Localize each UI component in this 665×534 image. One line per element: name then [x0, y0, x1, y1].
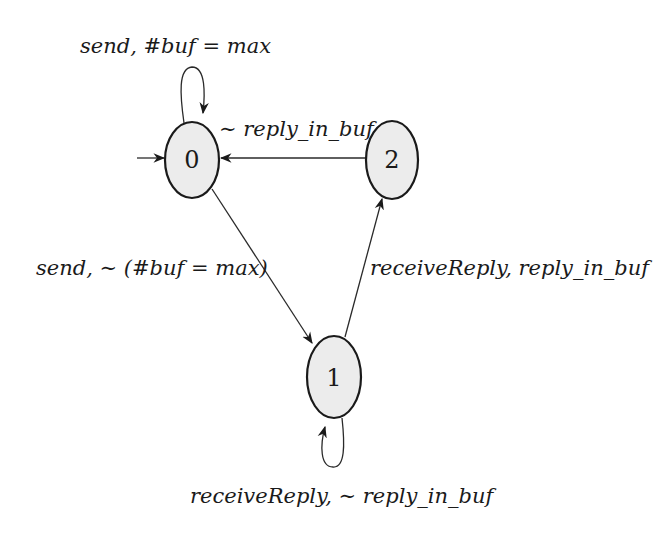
edge-0-to-1-label: send, ∼ (#buf = max)	[36, 256, 268, 280]
state-node-0[interactable]: 0	[165, 122, 219, 198]
edge-1-to-1-label: receiveReply, ∼ reply_in_buf	[190, 484, 496, 508]
state-node-2[interactable]: 2	[366, 121, 418, 199]
edge-0-to-0	[181, 67, 204, 123]
edge-0-to-0-label: send, #buf = max	[80, 34, 271, 58]
state-node-0-label: 0	[184, 146, 199, 174]
state-node-1-label: 1	[326, 364, 341, 392]
state-node-2-label: 2	[384, 146, 399, 174]
edge-2-to-0-label: ∼ reply_in_buf	[219, 117, 377, 141]
edge-1-to-1	[322, 418, 344, 467]
state-node-1[interactable]: 1	[307, 336, 361, 418]
state-diagram: 0 2 1 send, #buf = max ∼ reply_in_buf se…	[0, 0, 665, 534]
edge-1-to-2-label: receiveReply, reply_in_buf	[370, 256, 652, 280]
